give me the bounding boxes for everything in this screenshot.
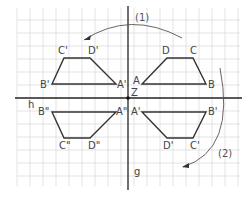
arrow-1-head — [84, 35, 91, 40]
vertex-c: C — [190, 46, 197, 56]
arrow-2-head — [182, 163, 189, 168]
vertex-b-prime-bottom: B' — [208, 107, 218, 117]
trapezoid-reflected-g — [52, 58, 116, 84]
trapezoid-double-reflected — [52, 112, 116, 138]
diagram-canvas: h g Z (1) (2) A B C D A' B' C' D' A' B' … — [0, 0, 245, 197]
vertex-b-prime-top: B' — [40, 80, 50, 90]
vertex-c-prime-top: C' — [58, 46, 68, 56]
vertex-d-prime-top: D' — [88, 46, 98, 56]
vertex-a-prime-top: A' — [117, 80, 127, 90]
arrow-1-label: (1) — [135, 13, 149, 23]
vertex-d-prime-bottom: D' — [163, 141, 173, 151]
vertex-b-double-prime: B" — [38, 107, 49, 117]
vertex-a-double-prime: A" — [116, 107, 127, 117]
vertex-a-prime-bottom: A' — [131, 107, 141, 117]
vertex-b: B — [208, 80, 215, 90]
center-point-z — [126, 96, 130, 100]
arrow-2-label: (2) — [218, 149, 232, 159]
vertex-a: A — [133, 76, 140, 86]
trapezoid-reflected-h — [142, 112, 206, 138]
axis-h-label: h — [28, 100, 34, 110]
vertex-d-double-prime: D" — [88, 141, 100, 151]
vertex-d: D — [162, 46, 170, 56]
arrow-1-path — [84, 24, 182, 40]
axis-g-label: g — [134, 167, 140, 177]
trapezoid-abcd — [142, 58, 206, 84]
center-label: Z — [131, 88, 138, 98]
vertex-c-prime-bottom: C' — [190, 141, 200, 151]
diagram-svg — [0, 0, 245, 197]
vertex-c-double-prime: C" — [59, 141, 71, 151]
